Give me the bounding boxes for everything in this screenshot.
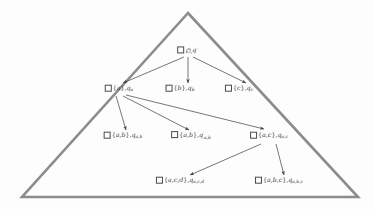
node-set: {a,b,c} [263, 176, 286, 183]
node-abc[interactable]: {a,b,c},qa,b,c [255, 176, 303, 187]
node-a[interactable]: {a},qa [105, 84, 133, 95]
node-state: qa,c [277, 131, 288, 138]
node-ac[interactable]: {a,c},qa,c [250, 131, 288, 142]
node-square-icon [166, 85, 173, 92]
node-square-icon [255, 177, 262, 184]
node-state: qa [127, 84, 134, 91]
node-set: {a,b} [112, 131, 130, 138]
node-square-icon [105, 85, 112, 92]
figure-canvas: ∅,q◦{a},qa{b},qb{c},qc{a,b},qa,b{a,b},q′… [0, 0, 374, 209]
node-label: {a,b,c},qa,b,c [263, 176, 303, 187]
node-label: {a,c},qa,c [258, 131, 288, 142]
node-state: qa,b,c [288, 176, 303, 183]
node-acd[interactable]: {a,c,d},qa,c,d [156, 176, 204, 187]
node-c[interactable]: {c},qc [225, 84, 253, 95]
node-b[interactable]: {b},qb [166, 84, 195, 95]
node-ab[interactable]: {a,b},qa,b [104, 131, 143, 142]
node-label: {c},qc [233, 84, 253, 95]
node-square-icon [171, 131, 178, 138]
node-label: {a,b},q′a,b [179, 130, 211, 142]
node-square-icon [104, 132, 111, 139]
node-square-icon [177, 46, 184, 53]
node-label: {b},qb [174, 84, 195, 95]
node-set: {b} [174, 84, 186, 91]
node-square-icon [250, 132, 257, 139]
node-ab-prime[interactable]: {a,b},q′a,b [171, 130, 211, 142]
node-state: qa,b [131, 131, 142, 138]
node-set: {a} [113, 84, 125, 91]
node-set: {a,c,d} [164, 176, 187, 183]
node-label: {a,b},qa,b [112, 131, 143, 142]
node-label: {a},qa [113, 84, 133, 95]
node-square-icon [156, 177, 163, 184]
node-set: {c} [233, 84, 245, 91]
triangle-shape [22, 13, 358, 197]
node-set: {a,b} [179, 131, 197, 138]
node-state: q◦ [192, 47, 199, 54]
node-label: ∅,q◦ [185, 45, 199, 54]
node-set: {a,c} [258, 131, 275, 138]
node-state: q′a,b [199, 131, 211, 138]
node-square-icon [225, 85, 232, 92]
node-state: qb [188, 84, 195, 91]
node-set: ∅ [185, 47, 190, 54]
node-label: {a,c,d},qa,c,d [164, 176, 204, 187]
node-root[interactable]: ∅,q◦ [177, 45, 199, 54]
node-state: qc [247, 84, 254, 91]
node-state: qa,c,d [189, 176, 204, 183]
